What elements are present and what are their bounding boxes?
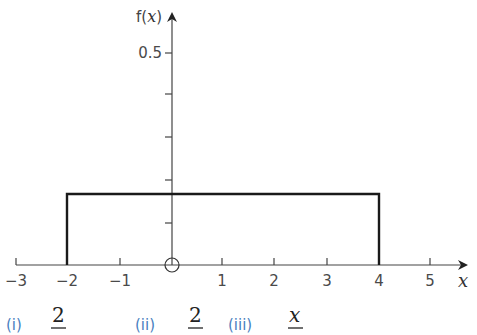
svg-text:2: 2 — [269, 272, 279, 290]
svg-text:2: 2 — [189, 303, 202, 327]
svg-text:(i): (i) — [6, 316, 22, 334]
svg-text:(ii): (ii) — [135, 316, 155, 334]
svg-text:3: 3 — [322, 272, 332, 290]
x-tick-labels: −3 −2 −1 1 2 3 4 5 — [5, 272, 435, 290]
svg-text:−3: −3 — [5, 272, 27, 290]
y-tick-label-0-5: 0.5 — [138, 44, 162, 62]
svg-text:1: 1 — [217, 272, 227, 290]
pdf-chart: −3 −2 −1 1 2 3 4 5 0.5 f(x) x (i) 2 (ii)… — [0, 0, 477, 335]
svg-text:x: x — [289, 303, 300, 327]
svg-text:−1: −1 — [109, 272, 131, 290]
y-ticks — [165, 53, 172, 223]
answer-parts: (i) 2 (ii) 2 (iii) x — [6, 303, 303, 334]
svg-text:4: 4 — [374, 272, 384, 290]
svg-text:2: 2 — [52, 303, 65, 327]
svg-text:−2: −2 — [56, 272, 78, 290]
x-axis-label: x — [458, 270, 468, 291]
x-ticks — [16, 258, 430, 265]
svg-text:(iii): (iii) — [228, 316, 252, 334]
pdf-rectangle — [67, 194, 379, 265]
y-axis-label: f(x) — [136, 7, 162, 26]
svg-text:5: 5 — [425, 272, 435, 290]
